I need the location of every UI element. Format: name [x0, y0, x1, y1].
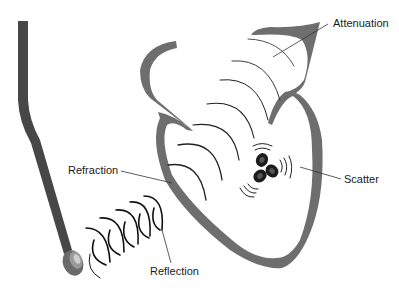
attenuation-label: Attenuation: [333, 18, 389, 29]
scatter-label: Scatter: [344, 174, 379, 185]
ultrasound-heart-diagram: Attenuation Refraction Scatter Reflectio…: [0, 0, 399, 293]
refraction-label: Refraction: [68, 165, 118, 176]
red-blood-cells-icon: [251, 151, 281, 185]
ultrasound-transducer-icon: [18, 21, 87, 279]
diagram-canvas: [0, 0, 399, 293]
reflection-label: Reflection: [150, 266, 199, 277]
heart-outline-icon: [140, 22, 323, 268]
